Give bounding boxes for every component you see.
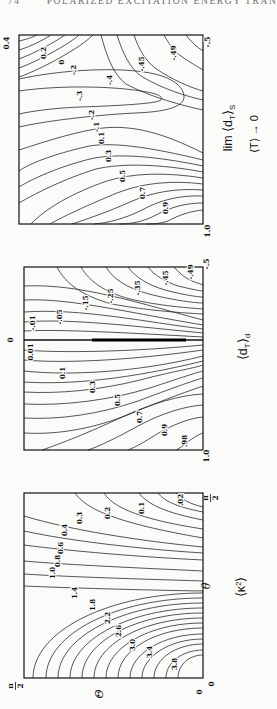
origin-zero-label: 0 [207, 681, 216, 686]
contour-label: .98 [180, 435, 189, 447]
contour-label: 0.9 [160, 424, 169, 436]
contour-label: 0.01 [26, 343, 35, 360]
plot-caption: ⟨κ2⟩ [234, 577, 248, 598]
caption-subscript: d [243, 334, 252, 338]
contour-label: 0.7 [135, 411, 144, 423]
contour-label: 0.4 [60, 524, 69, 536]
contour-label: 0 [57, 59, 66, 64]
contour-label: 0.6 [56, 542, 65, 554]
contour-label: -.1 [92, 122, 101, 132]
axis-corner-label: 0.4 [2, 36, 11, 49]
contour-label: 0.2 [103, 507, 112, 519]
contour-label: 1.0 [48, 567, 57, 579]
contour-lines [24, 493, 203, 678]
axis-corner-label: -.5 [203, 37, 212, 48]
contour-label: 0.8 [53, 555, 62, 567]
contour-label: 1.4 [70, 587, 79, 599]
axis-corner-label: 1.0 [203, 224, 212, 237]
contour-label: 0.2 [39, 47, 48, 59]
caption-subscript: S [228, 105, 237, 110]
contour-label: -.3 [75, 91, 84, 101]
origin-zero-label: 0 [195, 689, 204, 694]
contour-labels: .02 0.1 0.2 0.3 0.4 0.6 0.8 1.0 1.4 1.8 … [48, 494, 185, 670]
contour-label: -.2 [87, 110, 96, 120]
contour-label: 0.7 [138, 187, 147, 199]
contour-label: -.05 [55, 309, 64, 324]
plot-frame [24, 493, 203, 678]
plot-caption-limit-condition: ⟨T⟩ → 0 [248, 115, 260, 153]
contour-label: -.01 [28, 315, 37, 330]
contour-label: 0.5 [118, 170, 127, 182]
caption-text: ⟨d [236, 348, 250, 360]
contour-label: 0.3 [104, 150, 113, 162]
pi-numerator: π [201, 495, 210, 501]
contour-label: 3.4 [145, 646, 154, 658]
contour-label: 3.0 [128, 639, 137, 651]
contour-label: -.49 [186, 264, 195, 279]
figure-contour-plots: 0.2 0 -.2 -.3 -.2 -.1 0.1 0.3 0.5 0.7 0.… [0, 0, 277, 709]
axis-corner-label: -.5 [202, 259, 211, 270]
plot-kappa-squared: .02 0.1 0.2 0.3 0.4 0.6 0.8 1.0 1.4 1.8 … [6, 493, 248, 699]
contour-label: -.15 [81, 295, 90, 310]
contour-lines [19, 35, 203, 224]
y-axis-label-Theta: Θ [93, 689, 106, 698]
plot-dtd: -.01 -.05 -.15 -.25 -.35 -.45 -.49 0.01 … [6, 259, 252, 463]
contour-label: 0.1 [97, 132, 106, 144]
pi-numerator: π [6, 683, 15, 689]
axis-corner-label: 1.0 [202, 449, 211, 462]
caption-text: ⟩ [234, 577, 248, 582]
contour-label: 0.3 [75, 512, 84, 524]
contour-label: 3.8 [170, 658, 179, 670]
contour-label: 1.8 [88, 599, 97, 611]
contour-label: 0.5 [113, 394, 122, 406]
plot-lim-dts: 0.2 0 -.2 -.3 -.2 -.1 0.1 0.3 0.5 0.7 0.… [2, 35, 260, 238]
two-denominator: 2 [211, 495, 220, 500]
caption-text: lim ⟨d [221, 120, 235, 151]
contour-label: 0.3 [88, 381, 97, 393]
contour-label: .02 [176, 494, 185, 506]
contour-label: 0.9 [161, 202, 170, 214]
contour-label: -.2 [69, 65, 78, 75]
axis-max-label-pi-over-2: π 2 [6, 682, 25, 690]
contour-label: -.49 [169, 45, 178, 60]
plot-caption: ⟨dT⟩d [236, 334, 252, 360]
plot-caption: lim ⟨dT⟩S [221, 105, 237, 152]
zero-contour-label: 0 [6, 337, 15, 342]
contour-label: 0.1 [137, 502, 146, 514]
contour-label: -.25 [106, 288, 115, 303]
caption-text: ⟨κ [234, 585, 248, 597]
axis-max-label-pi-over-2: π 2 [201, 494, 220, 502]
contour-labels: 0.2 0 -.2 -.3 -.2 -.1 0.1 0.3 0.5 0.7 0.… [39, 45, 178, 214]
contour-label: 2.6 [114, 625, 123, 637]
contour-labels: -.01 -.05 -.15 -.25 -.35 -.45 -.49 0.01 … [26, 264, 195, 447]
contour-label: -.45 [137, 56, 146, 71]
contour-label: -.45 [161, 270, 170, 285]
contour-label: 0.1 [58, 367, 67, 379]
contour-label: 2.2 [103, 612, 112, 624]
contour-label: -.4 [105, 75, 114, 85]
contour-label: -.35 [133, 280, 142, 295]
two-denominator: 2 [16, 683, 25, 688]
x-axis-label-theta: θ [200, 582, 213, 589]
